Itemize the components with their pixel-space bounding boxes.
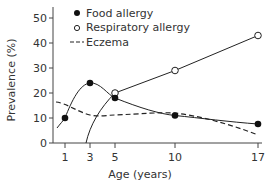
x-tick-label: 1 [62,151,69,164]
x-tick-label: 3 [87,151,94,164]
y-tick-label: 50 [33,12,47,25]
y-tick-label: 20 [33,87,47,100]
series-eczema-line [56,102,258,135]
chart: 0 10 20 30 40 50 1 3 5 10 17 Age (years)… [0,0,269,189]
legend-label: Eczema [86,36,129,49]
legend-label: Respiratory allergy [86,21,190,34]
x-tick-label: 17 [251,151,265,164]
x-axis-label: Age (years) [108,168,172,181]
food-point [112,95,119,102]
food-point [62,115,69,122]
x-tick-label: 10 [168,151,182,164]
series-respiratory-line [86,36,258,144]
food-point [172,112,179,119]
respiratory-point [172,67,179,74]
x-ticks: 1 3 5 10 17 [62,143,266,164]
y-tick-label: 10 [33,112,47,125]
y-ticks: 0 10 20 30 40 50 [33,12,53,150]
legend: Food allergy Respiratory allergy Eczema [70,7,190,49]
y-tick-label: 0 [40,137,47,150]
filled-circle-icon [74,10,80,16]
open-circle-icon [74,25,79,30]
y-tick-label: 40 [33,37,47,50]
legend-label: Food allergy [86,7,154,20]
series-food-line [57,83,258,128]
food-point [255,121,262,128]
x-tick-label: 5 [112,151,119,164]
y-axis-label: Prevalence (%) [5,39,18,122]
food-point [87,80,94,87]
respiratory-point [255,32,262,39]
y-tick-label: 30 [33,62,47,75]
